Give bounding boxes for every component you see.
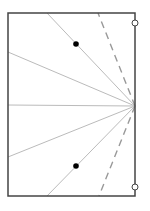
circle-bottom-marker bbox=[132, 184, 138, 190]
ray-bottom-line bbox=[47, 106, 135, 196]
fan-lines bbox=[8, 13, 135, 196]
diagram-canvas bbox=[0, 0, 150, 211]
filled-dots bbox=[73, 41, 79, 169]
dash-top-line bbox=[98, 13, 135, 106]
ray-lower-line bbox=[8, 106, 135, 157]
ray-middle-line bbox=[8, 105, 135, 106]
circle-top-marker bbox=[132, 20, 138, 26]
dot-lower-marker bbox=[73, 163, 79, 169]
ray-top-line bbox=[47, 13, 135, 106]
dot-upper-marker bbox=[73, 41, 79, 47]
frame-rectangle bbox=[8, 13, 135, 196]
dash-bottom-line bbox=[99, 106, 135, 196]
dashed-lines bbox=[98, 13, 135, 196]
ray-upper-line bbox=[8, 52, 135, 106]
